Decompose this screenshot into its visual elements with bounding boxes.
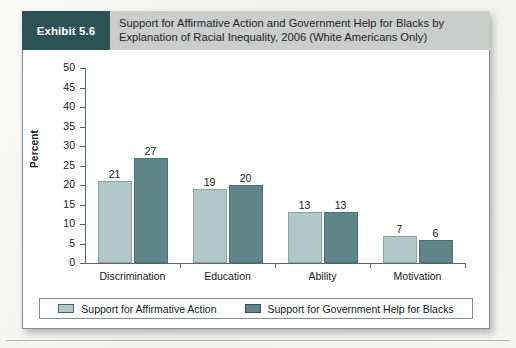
x-axis-tick [180, 263, 181, 268]
y-axis-tick: 45 [80, 88, 85, 89]
legend-swatch [58, 304, 74, 313]
exhibit-number-badge: Exhibit 5.6 [22, 11, 110, 50]
bar: 27 [134, 158, 168, 263]
legend-item: Support for Affirmative Action [58, 303, 216, 315]
bar-value-label: 19 [204, 176, 216, 188]
x-axis-category-label: Discrimination [100, 270, 166, 282]
chart-legend: Support for Affirmative ActionSupport fo… [39, 298, 473, 319]
legend-swatch [245, 304, 261, 313]
y-axis-tick-label: 50 [63, 61, 75, 73]
y-axis-tick-label: 0 [69, 256, 75, 268]
page-horizontal-rule [6, 340, 510, 341]
y-axis-tick: 15 [80, 205, 85, 206]
y-axis-tick: 0 [80, 263, 85, 264]
bar-value-label: 6 [433, 227, 439, 239]
y-axis-tick-label: 5 [69, 237, 75, 249]
exhibit-title-line-1: Support for Affirmative Action and Gover… [119, 16, 482, 30]
legend-item: Support for Government Help for Blacks [245, 303, 454, 315]
legend-label: Support for Government Help for Blacks [268, 303, 454, 315]
x-axis-category-label: Ability [308, 270, 336, 282]
exhibit-title: Support for Affirmative Action and Gover… [110, 11, 490, 50]
y-axis-tick-label: 35 [63, 120, 75, 132]
y-axis-tick-label: 30 [63, 139, 75, 151]
plot-area: 50454035302520151050 21271920131376 Disc… [85, 68, 465, 263]
y-axis-tick: 10 [80, 224, 85, 225]
bar-value-label: 21 [109, 168, 121, 180]
bar: 6 [419, 240, 453, 263]
exhibit-panel: Exhibit 5.6 Support for Affirmative Acti… [22, 11, 490, 329]
y-axis-tick: 25 [80, 166, 85, 167]
y-axis-tick: 20 [80, 185, 85, 186]
y-axis-tick-label: 25 [63, 159, 75, 171]
y-axis-tick: 50 [80, 68, 85, 69]
bar: 7 [383, 236, 417, 263]
bar-value-label: 20 [240, 172, 252, 184]
x-axis-tick [275, 263, 276, 268]
bar: 19 [193, 189, 227, 263]
bar-value-label: 27 [145, 145, 157, 157]
x-axis-tick [370, 263, 371, 268]
bar: 21 [98, 181, 132, 263]
y-axis-title: Percent [29, 130, 40, 168]
y-axis-tick-label: 40 [63, 100, 75, 112]
exhibit-title-line-2: Explanation of Racial Inequality, 2006 (… [119, 30, 482, 44]
chart-body: Percent 50454035302520151050 21271920131… [22, 50, 490, 329]
y-axis-line [85, 68, 86, 263]
y-axis-tick-label: 15 [63, 198, 75, 210]
y-axis-tick: 5 [80, 244, 85, 245]
x-axis-category-label: Education [204, 270, 251, 282]
x-axis-category-label: Motivation [394, 270, 442, 282]
y-axis-tick-label: 45 [63, 81, 75, 93]
y-axis-tick-label: 20 [63, 178, 75, 190]
y-axis-tick-label: 10 [63, 217, 75, 229]
exhibit-header: Exhibit 5.6 Support for Affirmative Acti… [22, 11, 490, 50]
legend-label: Support for Affirmative Action [81, 303, 216, 315]
bar: 13 [324, 212, 358, 263]
y-axis-tick: 35 [80, 127, 85, 128]
x-axis-tick [465, 263, 466, 268]
bar-value-label: 7 [397, 223, 403, 235]
bar: 13 [288, 212, 322, 263]
y-axis-tick: 40 [80, 107, 85, 108]
bar-value-label: 13 [299, 199, 311, 211]
bar: 20 [229, 185, 263, 263]
bar-value-label: 13 [335, 199, 347, 211]
y-axis-tick: 30 [80, 146, 85, 147]
